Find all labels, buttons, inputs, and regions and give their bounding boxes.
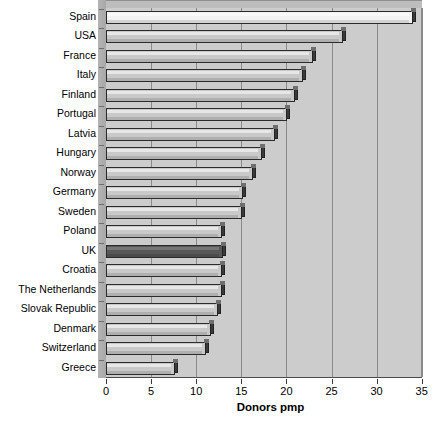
x-tick-label-30: 30 [357,385,397,397]
bar-row [106,339,421,358]
bar-row [106,66,421,85]
x-tick-10 [196,379,197,384]
x-tick-20 [286,379,287,384]
bar-shade [107,137,271,140]
bar-usa [106,30,343,43]
bar-row [106,164,421,183]
bar-shade [107,312,214,315]
y-tick [99,126,104,127]
x-tick-5 [151,379,152,384]
y-tick [99,243,104,244]
bar-row [106,8,421,27]
bar-the-netherlands [106,284,222,297]
bar-shade [107,78,299,81]
bar-highlight [107,305,214,308]
bar-shade [107,371,171,374]
bar-row [106,261,421,280]
bar-3d-cap-top [220,281,225,285]
y-tick [99,360,104,361]
category-label-finland: Finland [0,88,96,100]
bar-3d-cap-top [240,203,245,207]
y-tick [99,106,104,107]
bar-highlight [107,110,283,113]
bar-3d-cap-top [293,86,298,90]
bar-highlight [107,52,309,55]
bar-shade [107,117,283,120]
bar-3d-cap-top [209,320,214,324]
bar-shade [107,332,207,335]
bar-latvia [106,128,275,141]
bar-switzerland [106,342,206,355]
bar-highlight [107,149,258,152]
bar-spain [106,11,413,24]
bar-shade [107,156,258,159]
plot-area [106,8,422,378]
x-tick-label-20: 20 [266,385,306,397]
bar-3d-cap-top [411,8,416,12]
category-label-uk: UK [0,244,96,256]
x-tick-label-5: 5 [131,385,171,397]
bar-finland [106,89,295,102]
bar-shade [107,39,339,42]
bar-3d-cap-top [301,66,306,70]
bar-3d-cap-top [173,359,178,363]
bar-row [106,203,421,222]
bar-row [106,183,421,202]
y-tick [99,67,104,68]
bar-uk [106,245,223,258]
bar-row [106,86,421,105]
category-label-switzerland: Switzerland [0,341,96,353]
category-label-hungary: Hungary [0,146,96,158]
y-tick [99,87,104,88]
category-label-usa: USA [0,29,96,41]
bar-portugal [106,108,287,121]
y-tick [99,165,104,166]
bar-poland [106,225,222,238]
bar-row [106,242,421,261]
bar-highlight [107,208,238,211]
x-tick-25 [332,379,333,384]
y-tick [99,9,104,10]
category-label-poland: Poland [0,224,96,236]
plot-3d-top-shelf [98,0,422,8]
category-label-greece: Greece [0,361,96,373]
bar-croatia [106,264,222,277]
bar-highlight [107,344,202,347]
x-tick-15 [241,379,242,384]
bar-3d-cap-top [241,183,246,187]
bar-3d-cap-top [285,105,290,109]
y-tick [99,28,104,29]
bar-sweden [106,206,242,219]
bar-highlight [107,169,249,172]
bar-3d-cap-top [273,125,278,129]
bar-row [106,144,421,163]
bar-shade [107,254,219,257]
x-axis-title: Donors pmp [0,401,435,413]
bar-highlight [107,247,219,250]
bar-highlight [107,227,218,230]
donors-pmp-bar-chart: SpainUSAFranceItalyFinlandPortugalLatvia… [0,0,435,426]
category-label-croatia: Croatia [0,263,96,275]
bar-highlight [107,188,239,191]
bar-shade [107,195,239,198]
bar-highlight [107,130,271,133]
category-label-germany: Germany [0,185,96,197]
bar-highlight [107,325,207,328]
bar-3d-cap-top [220,222,225,226]
category-label-spain: Spain [0,10,96,22]
y-tick [99,321,104,322]
category-label-norway: Norway [0,166,96,178]
bar-greece [106,362,175,375]
y-tick [99,262,104,263]
category-label-sweden: Sweden [0,205,96,217]
y-tick [99,48,104,49]
bar-shade [107,176,249,179]
bar-row [106,320,421,339]
bar-hungary [106,147,262,160]
x-tick-35 [422,379,423,384]
category-label-denmark: Denmark [0,322,96,334]
bar-shade [107,234,218,237]
x-tick-label-25: 25 [312,385,352,397]
bar-italy [106,69,303,82]
bar-highlight [107,71,299,74]
